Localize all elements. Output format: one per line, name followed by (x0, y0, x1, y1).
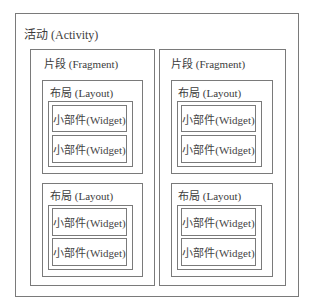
widget: 小部件(Widget) (181, 208, 256, 236)
layout-label: 布局 (Layout) (50, 190, 113, 202)
widget: 小部件(Widget) (181, 135, 256, 163)
fragment-label-left: 片段 (Fragment) (44, 58, 118, 70)
layout-label: 布局 (Layout) (178, 87, 241, 99)
activity-label: 活动 (Activity) (24, 29, 98, 41)
widget: 小部件(Widget) (52, 208, 127, 236)
widget: 小部件(Widget) (52, 135, 127, 163)
layout-label: 布局 (Layout) (50, 87, 113, 99)
layout-label: 布局 (Layout) (178, 190, 241, 202)
widget: 小部件(Widget) (52, 238, 127, 266)
widget: 小部件(Widget) (181, 238, 256, 266)
widget: 小部件(Widget) (181, 105, 256, 132)
fragment-label-right: 片段 (Fragment) (171, 58, 245, 70)
widget: 小部件(Widget) (52, 105, 127, 132)
